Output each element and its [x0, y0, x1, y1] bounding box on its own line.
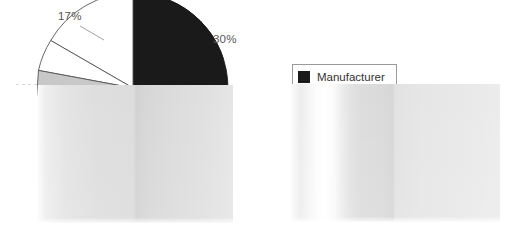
legend-swatch-icon	[298, 71, 310, 83]
pie-chart-graphic	[0, 0, 524, 235]
legend-item-manufacturer[interactable]: Manufacturer	[298, 68, 385, 86]
leader-line-cutoff	[16, 84, 38, 85]
chart-canvas: 17% 30% Manufacturer	[0, 0, 524, 235]
legend-item-label: Manufacturer	[317, 71, 385, 83]
pie-label-17-percent: 17%	[58, 10, 82, 22]
pie-label-30-percent: 30%	[213, 33, 237, 45]
